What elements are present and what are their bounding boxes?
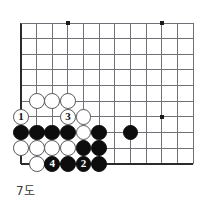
black-stone[interactable] [44, 125, 60, 141]
white-stone[interactable] [29, 140, 45, 156]
white-stone[interactable]: 1 [13, 109, 29, 125]
move-number-label: 2 [81, 158, 87, 169]
white-stone[interactable] [44, 140, 60, 156]
black-stone[interactable]: 2 [76, 156, 92, 172]
stone-layer: 1342 [0, 0, 217, 180]
black-stone[interactable] [29, 125, 45, 141]
black-stone[interactable] [91, 156, 107, 172]
black-stone[interactable] [60, 125, 76, 141]
white-stone[interactable] [60, 93, 76, 109]
white-stone[interactable] [76, 109, 92, 125]
move-number-label: 3 [65, 111, 71, 122]
move-number-label: 4 [50, 158, 56, 169]
black-stone[interactable] [60, 156, 76, 172]
black-stone[interactable] [13, 125, 29, 141]
black-stone[interactable] [76, 140, 92, 156]
go-diagram: 1342 7도 [0, 0, 217, 208]
white-stone[interactable] [76, 125, 92, 141]
white-stone[interactable] [13, 140, 29, 156]
white-stone[interactable] [44, 93, 60, 109]
black-stone[interactable] [123, 125, 139, 141]
black-stone[interactable] [91, 125, 107, 141]
black-stone[interactable]: 4 [44, 156, 60, 172]
figure-caption: 7도 [16, 181, 36, 198]
go-board: 1342 [0, 0, 217, 180]
black-stone[interactable] [91, 140, 107, 156]
white-stone[interactable]: 3 [60, 109, 76, 125]
white-stone[interactable] [60, 140, 76, 156]
move-number-label: 1 [18, 111, 24, 122]
white-stone[interactable] [29, 93, 45, 109]
white-stone[interactable] [29, 156, 45, 172]
